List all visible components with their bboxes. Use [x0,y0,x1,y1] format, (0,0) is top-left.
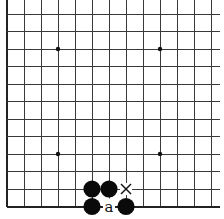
star-point-icon [56,152,60,156]
star-point-icon [158,152,162,156]
star-point-icon [158,47,162,51]
black-stone-icon [83,180,100,197]
go-board-diagram: a [0,0,224,219]
point-label-a: a [105,198,114,216]
black-stone-icon [83,198,100,215]
star-point-icon [56,47,60,51]
board-grid [7,0,220,207]
black-stone-icon [100,180,117,197]
black-stone-icon [117,198,134,215]
